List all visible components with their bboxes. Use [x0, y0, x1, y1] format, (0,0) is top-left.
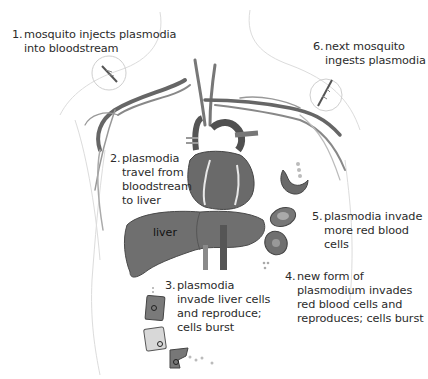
heart — [186, 118, 258, 209]
step-5-label: 5.plasmodia invade more red blood cells — [312, 210, 422, 252]
step-2-label: 2.plasmodia travel from bloodstream to l… — [110, 152, 192, 208]
step-5-number: 5. — [312, 210, 324, 224]
step-1-number: 1. — [12, 28, 24, 42]
liver-label: liver — [153, 226, 177, 239]
step-4-label: 4.new form of plasmodium invades red blo… — [285, 270, 424, 326]
red-blood-cells — [260, 162, 308, 269]
liver — [124, 211, 264, 277]
step-1-label: 1.mosquito injects plasmodia into bloods… — [12, 28, 176, 56]
step-6-number: 6. — [313, 40, 325, 54]
mosquito-bite-left — [92, 56, 126, 90]
step-2-number: 2. — [110, 152, 122, 166]
step-3-number: 3. — [165, 279, 177, 293]
step-4-number: 4. — [285, 270, 297, 284]
step-3-label: 3.plasmodia invade liver cells and repro… — [165, 279, 270, 335]
step-6-label: 6.next mosquito ingests plasmodia — [313, 40, 426, 68]
